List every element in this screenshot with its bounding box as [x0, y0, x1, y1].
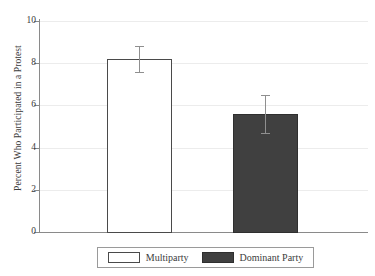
gridline-4: [39, 148, 368, 149]
errorbar-cap-lower-multiparty: [135, 72, 144, 73]
y-tick-label-10: 10: [18, 16, 36, 26]
y-tick-label-8: 8: [18, 58, 36, 68]
legend-label-multiparty: Multiparty: [146, 252, 189, 263]
legend-item-multiparty[interactable]: Multiparty: [108, 252, 189, 263]
errorbar-line-dominant-party: [265, 95, 266, 133]
bar-chart: Percent Who Participated in a Protest 10…: [0, 0, 375, 276]
y-tick-label-0: 0: [18, 227, 36, 237]
gridline-10: [39, 21, 368, 22]
y-axis-line: [39, 19, 40, 233]
gridline-8: [39, 63, 368, 64]
errorbar-cap-lower-dominant-party: [261, 133, 270, 134]
y-tick-label-4: 4: [18, 143, 36, 153]
bar-multiparty[interactable]: [107, 59, 172, 233]
errorbar-line-multiparty: [139, 46, 140, 72]
chart-legend: Multiparty Dominant Party: [97, 247, 314, 268]
legend-swatch-multiparty: [108, 252, 140, 263]
y-tick-label-6: 6: [18, 100, 36, 110]
errorbar-cap-upper-dominant-party: [261, 95, 270, 96]
legend-label-dominant-party: Dominant Party: [240, 252, 304, 263]
legend-item-dominant-party[interactable]: Dominant Party: [202, 252, 304, 263]
x-axis-line: [39, 232, 368, 233]
gridline-2: [39, 190, 368, 191]
gridline-6: [39, 105, 368, 106]
errorbar-cap-upper-multiparty: [135, 46, 144, 47]
y-tick-label-2: 2: [18, 185, 36, 195]
legend-swatch-dominant-party: [202, 252, 234, 263]
